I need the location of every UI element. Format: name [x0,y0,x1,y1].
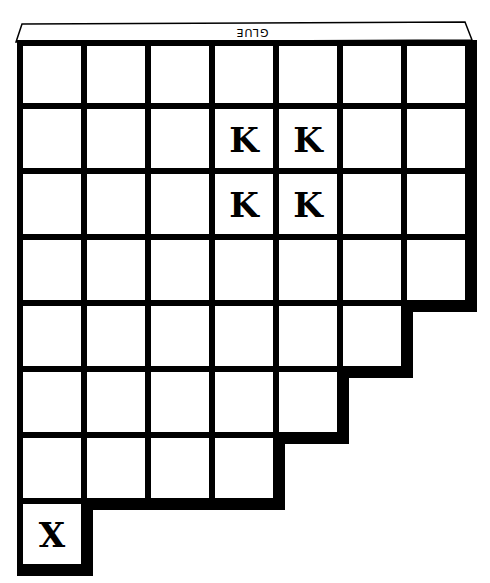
grid-cell[interactable] [17,300,87,372]
grid-cell[interactable] [273,234,343,306]
grid-cell[interactable] [145,300,215,372]
grid-cell[interactable] [401,234,471,306]
grid-cell[interactable] [81,432,151,504]
grid-cell[interactable]: K [273,103,343,174]
puzzle-board: GLUE KKKKX [0,0,490,583]
grid-cell[interactable] [17,103,87,174]
grid-cell[interactable] [209,40,279,109]
grid-cell[interactable]: K [209,103,279,174]
grid-cell[interactable] [337,300,407,372]
grid-cell[interactable] [81,366,151,438]
grid-cell[interactable] [81,40,151,109]
grid-cell[interactable] [209,234,279,306]
grid-cell[interactable]: K [209,168,279,240]
grid-cell[interactable] [17,168,87,240]
grid-cell[interactable] [17,234,87,306]
cell-mark-k: K [229,123,259,157]
grid-cell[interactable] [145,432,215,504]
grid-cell[interactable] [337,103,407,174]
grid-cell[interactable] [145,234,215,306]
grid-cell[interactable] [145,366,215,438]
cell-mark-k: K [293,123,323,157]
grid-cell[interactable] [81,103,151,174]
grid-cell[interactable] [337,40,407,109]
grid-cell[interactable] [145,103,215,174]
cell-mark-k: K [293,188,323,222]
grid-cell[interactable] [209,366,279,438]
grid-cell[interactable] [273,40,343,109]
grid-cell[interactable] [273,300,343,372]
grid-cell[interactable] [209,300,279,372]
grid-cell[interactable] [401,168,471,240]
glue-tab-label: GLUE [222,25,282,39]
grid-cell[interactable] [401,103,471,174]
grid-cell[interactable] [337,168,407,240]
grid-cell[interactable] [209,432,279,504]
grid-cell[interactable] [81,168,151,240]
grid-cell[interactable] [81,300,151,372]
grid-cell[interactable] [17,432,87,504]
grid-cell[interactable] [145,40,215,109]
grid-cell[interactable]: X [17,498,87,570]
grid-cell[interactable] [81,234,151,306]
grid-cell[interactable] [401,40,471,109]
grid-cell[interactable]: K [273,168,343,240]
grid-cell[interactable] [145,168,215,240]
grid-cell[interactable] [337,234,407,306]
cell-mark-x: X [39,518,65,552]
grid-cell[interactable] [17,366,87,438]
cell-mark-k: K [229,188,259,222]
grid-cell[interactable] [273,366,343,438]
grid-cell[interactable] [17,40,87,109]
